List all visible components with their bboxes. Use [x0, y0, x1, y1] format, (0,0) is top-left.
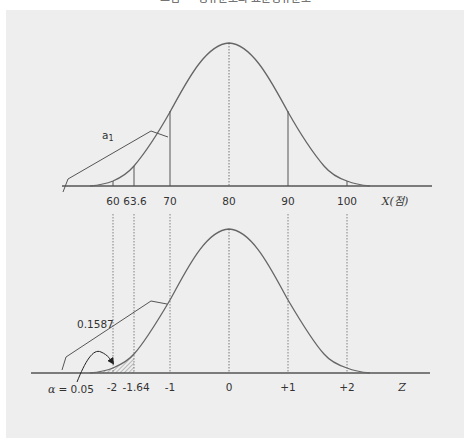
top-axis-label: X(점): [381, 195, 408, 208]
a1-label: a1: [102, 129, 114, 143]
normal-distribution-diagram: a1 60 63.6 70 80 90 100 X(점) 0.1587 α= 0…: [0, 0, 471, 442]
area-0-1587-label: 0.1587: [77, 318, 114, 330]
bottom-tick-minus-1: -1: [165, 381, 175, 393]
bottom-normal-curve-group: 0.1587 α= 0.05 -2 -1.64 -1 0 +1 +2 Z: [31, 229, 430, 396]
top-tick-63-6: 63.6: [123, 195, 147, 207]
bottom-tick-0: 0: [226, 381, 233, 393]
top-bell-curve: [90, 43, 370, 186]
bottom-bell-curve: [90, 229, 370, 373]
top-normal-curve-group: a1 60 63.6 70 80 90 100 X(점): [62, 43, 432, 208]
bottom-tick-plus-1: +1: [280, 381, 295, 393]
bottom-tick-plus-2: +2: [339, 381, 354, 393]
alpha-label: α= 0.05: [48, 383, 94, 396]
top-tick-100: 100: [337, 195, 357, 207]
connector-lines: [113, 214, 347, 373]
alpha-arrow: [77, 351, 113, 382]
top-tick-80: 80: [222, 195, 235, 207]
top-tick-60: 60: [106, 195, 119, 207]
bottom-tick-minus-2: -2: [107, 381, 117, 393]
bottom-tick-minus-1-64: -1.64: [122, 381, 149, 393]
alpha-shaded-region: [90, 354, 134, 373]
bottom-axis-label: Z: [397, 381, 406, 394]
top-tick-70: 70: [163, 195, 176, 207]
top-tick-90: 90: [281, 195, 294, 207]
area-0-1587-pointer-line: [62, 301, 167, 370]
